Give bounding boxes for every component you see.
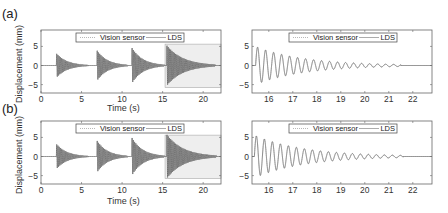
legend-label-lds: LDS	[167, 33, 182, 42]
x-tick-label: 19	[336, 185, 346, 195]
y-tick-label: 0	[33, 152, 38, 162]
plot-a-left: 05101520−505Vision sensorLDS	[28, 30, 221, 104]
plot-b-left: 05101520−505Vision sensorLDS	[28, 121, 221, 195]
x-tick-label: 17	[288, 185, 298, 195]
x-tick-label: 18	[312, 94, 322, 104]
x-tick-label: 20	[360, 94, 370, 104]
y-tick-label: −5	[239, 80, 249, 90]
legend-label-vision: Vision sensor	[313, 33, 358, 42]
figure-canvas: 05101520−505Vision sensorLDS 16171819202…	[0, 0, 448, 213]
y-tick-label: 0	[33, 61, 38, 71]
legend-label-vision: Vision sensor	[100, 33, 145, 42]
vision-sensor-series	[252, 136, 432, 175]
y-tick-label: −5	[239, 171, 249, 181]
legend-label-lds: LDS	[380, 33, 395, 42]
y-tick-label: −5	[28, 80, 38, 90]
x-tick-label: 18	[312, 185, 322, 195]
y-tick-label: 5	[244, 41, 249, 51]
x-tick-label: 22	[408, 185, 418, 195]
y-tick-label: 5	[33, 132, 38, 142]
lds-series	[252, 47, 432, 82]
x-tick-label: 10	[117, 94, 127, 104]
y-tick-label: 5	[244, 132, 249, 142]
legend: Vision sensorLDS	[76, 33, 184, 42]
legend-label-lds: LDS	[380, 124, 395, 133]
y-tick-label: 5	[33, 41, 38, 51]
legend: Vision sensorLDS	[76, 124, 184, 133]
y-tick-label: −5	[28, 171, 38, 181]
plot-a-right: 16171819202122−505Vision sensorLDS	[239, 30, 432, 104]
y-tick-label: 0	[244, 61, 249, 71]
x-tick-label: 16	[264, 94, 274, 104]
x-tick-label: 20	[360, 185, 370, 195]
x-tick-label: 17	[288, 94, 298, 104]
x-tick-label: 19	[336, 94, 346, 104]
plot-b-right: 16171819202122−505Vision sensorLDS	[239, 121, 432, 195]
legend: Vision sensorLDS	[289, 33, 397, 42]
legend-label-vision: Vision sensor	[313, 124, 358, 133]
vision-sensor-series	[252, 47, 432, 82]
x-tick-label: 22	[408, 94, 418, 104]
x-tick-label: 0	[39, 94, 44, 104]
x-tick-label: 5	[79, 185, 84, 195]
legend-label-vision: Vision sensor	[100, 124, 145, 133]
legend: Vision sensorLDS	[289, 124, 397, 133]
x-tick-label: 15	[158, 94, 168, 104]
x-tick-label: 10	[117, 185, 127, 195]
legend-label-lds: LDS	[167, 124, 182, 133]
x-tick-label: 15	[158, 185, 168, 195]
lds-series	[252, 136, 432, 175]
x-tick-label: 21	[384, 185, 394, 195]
y-tick-label: 0	[244, 152, 249, 162]
x-tick-label: 20	[198, 94, 208, 104]
x-tick-label: 0	[39, 185, 44, 195]
x-tick-label: 20	[198, 185, 208, 195]
x-tick-label: 21	[384, 94, 394, 104]
x-tick-label: 16	[264, 185, 274, 195]
x-tick-label: 5	[79, 94, 84, 104]
